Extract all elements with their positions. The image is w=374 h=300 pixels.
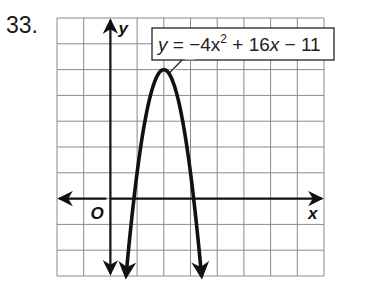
- origin-label: O: [90, 204, 103, 223]
- parabola-graph: y = −4x2 + 16x − 11 y x O: [0, 0, 374, 300]
- y-axis-label: y: [117, 19, 129, 38]
- x-axis-label: x: [307, 204, 319, 223]
- equation-label: y = −4x2 + 16x − 11: [156, 32, 321, 55]
- equation-callout: y = −4x2 + 16x − 11: [152, 28, 334, 73]
